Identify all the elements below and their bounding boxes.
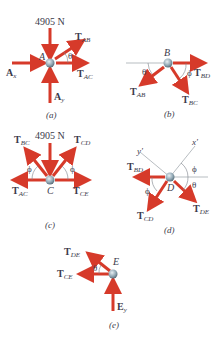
angle-phi-b: ϕ xyxy=(187,68,192,78)
load-label-c: 4905 N xyxy=(35,130,65,141)
free-body-diagrams: 4905 N A θ TAB TAC Ax Ay (a) B θ ϕ TAB T… xyxy=(0,0,217,337)
caption-e: (e) xyxy=(109,320,119,330)
force-label-tac: TAC xyxy=(77,68,93,81)
node-c xyxy=(46,176,55,185)
force-label-tcd: TCD xyxy=(74,134,90,147)
force-label-tbd: TBD xyxy=(194,67,210,80)
node-e xyxy=(109,270,118,279)
force-label-tbc-c: TBC xyxy=(14,134,30,147)
force-label-ax: Ax xyxy=(6,67,17,80)
phi-arc-c-left xyxy=(32,166,38,180)
angle-label-a: θ xyxy=(68,51,72,61)
force-label-tce-e: TCE xyxy=(57,268,73,281)
theta-arc-d xyxy=(183,177,188,190)
tde-arrow xyxy=(174,181,193,199)
tcd-arrow-d xyxy=(150,181,167,207)
node-label-d: D xyxy=(166,182,175,193)
angle-label-e: θ xyxy=(93,263,97,273)
node-label-e: E xyxy=(112,256,119,267)
force-label-tab-b: TAB xyxy=(130,86,146,99)
phi-arc-d-left xyxy=(152,177,157,191)
theta-arc-b xyxy=(148,63,152,74)
phi-arc-c-right xyxy=(62,166,68,180)
force-label-ey: Ey xyxy=(117,301,128,314)
panel-e: E θ TDE TCE Ey (e) xyxy=(57,246,128,330)
phi-arc-d-right xyxy=(181,163,188,177)
node-b xyxy=(164,59,173,68)
caption-d: (d) xyxy=(164,225,175,235)
force-label-tbd-d: TBD xyxy=(127,161,143,174)
angle-phi-d-left: ϕ xyxy=(145,186,150,196)
y-prime-axis xyxy=(140,152,170,177)
phi-arc-b xyxy=(180,63,186,78)
angle-phi-d-right: ϕ xyxy=(192,164,197,174)
angle-theta-b: θ xyxy=(142,67,146,77)
force-label-ay: Ay xyxy=(54,91,65,104)
load-label-a: 4905 N xyxy=(35,16,65,27)
node-d xyxy=(166,173,175,182)
force-label-tce: TCE xyxy=(73,185,89,198)
axis-label-y-prime: y' xyxy=(136,146,144,156)
force-label-tab: TAB xyxy=(75,31,91,44)
force-label-tcd-d: TCD xyxy=(137,210,153,223)
panel-b: B θ ϕ TAB TBC TBD (b) xyxy=(126,47,210,119)
force-label-tde-e: TDE xyxy=(64,246,81,259)
node-label-a: A xyxy=(38,51,46,62)
force-label-tde: TDE xyxy=(193,203,210,216)
angle-phi-c-left: ϕ xyxy=(27,164,32,174)
panel-c: 4905 N C ϕ ϕ TBC TCD TAC TCE (c) xyxy=(12,130,90,230)
caption-b: (b) xyxy=(164,109,175,119)
panel-d: D y' x' ϕ θ ϕ TBD TCD TDE (d) xyxy=(127,137,210,235)
angle-phi-c-right: ϕ xyxy=(70,164,75,174)
axis-label-x-prime: x' xyxy=(191,137,199,147)
angle-theta-d: θ xyxy=(192,180,196,190)
caption-c: (c) xyxy=(45,220,55,230)
caption-a: (a) xyxy=(46,110,57,120)
panel-a: 4905 N A θ TAB TAC Ax Ay (a) xyxy=(6,16,93,120)
force-label-tbc: TBC xyxy=(182,94,198,107)
force-label-tac-c: TAC xyxy=(12,185,28,198)
tbc-arrow xyxy=(171,67,186,90)
node-label-c: C xyxy=(47,185,54,196)
node-a xyxy=(46,59,55,68)
node-label-b: B xyxy=(164,47,170,58)
